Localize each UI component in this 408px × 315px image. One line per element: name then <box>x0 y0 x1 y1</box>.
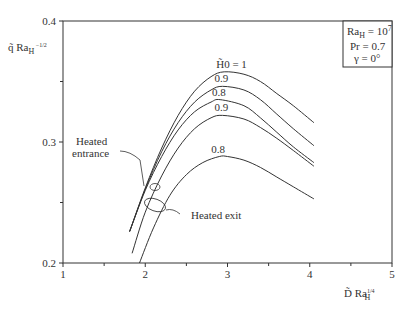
x-axis: 12345 <box>60 263 395 280</box>
series-line <box>132 115 314 253</box>
series-label: 0.8 <box>211 143 225 155</box>
y-tick-label: 0.4 <box>42 15 56 27</box>
svg-text:q̃ RaH −1/2: q̃ RaH −1/2 <box>8 41 47 56</box>
svg-text:entrance: entrance <box>72 147 109 159</box>
x-axis-label: D̃ Ra1/4H <box>344 287 375 302</box>
param-gamma: γ = 0° <box>353 52 380 64</box>
y-axis-label: q̃ RaH −1/2 <box>8 41 47 56</box>
chart: 12345 0.20.30.4 H̃0 = 10.90.80.90.8 RaH … <box>0 0 408 315</box>
y-tick-label: 0.2 <box>42 257 56 269</box>
series-label: 0.9 <box>215 101 229 113</box>
parameter-box: RaH = 107 Pr = 0.7 γ = 0° <box>343 21 392 67</box>
y-tick-label: 0.3 <box>42 136 56 148</box>
series-label: H̃0 = 1 <box>216 58 247 70</box>
svg-text:Heated: Heated <box>76 135 108 147</box>
y-axis: 0.20.30.4 <box>42 15 63 269</box>
x-tick-label: 5 <box>389 268 395 280</box>
svg-text:D̃ Ra1/4H: D̃ Ra1/4H <box>344 287 375 302</box>
x-tick-label: 3 <box>225 268 231 280</box>
series-label: 0.9 <box>215 72 229 84</box>
param-pr: Pr = 0.7 <box>350 40 386 52</box>
x-tick-label: 2 <box>143 268 149 280</box>
series-label: 0.8 <box>212 86 226 98</box>
annotation-heated-exit: Heated exit <box>143 196 242 221</box>
svg-text:Heated exit: Heated exit <box>191 209 241 221</box>
x-tick-label: 1 <box>60 268 66 280</box>
annotation-heated-entrance: Heated entrance <box>72 135 160 191</box>
x-tick-label: 4 <box>307 268 313 280</box>
